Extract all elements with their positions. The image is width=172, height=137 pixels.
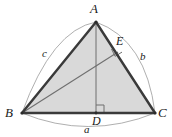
point-label-E: E	[116, 35, 123, 47]
vertex-label-B: B	[5, 106, 13, 119]
triangle-fill	[22, 22, 155, 113]
point-label-D: D	[92, 115, 101, 127]
vertex-dot-C	[153, 111, 156, 114]
side-label-c: c	[42, 48, 47, 59]
vertex-label-A: A	[90, 2, 98, 15]
vertex-dot-A	[94, 20, 97, 23]
figure-canvas	[0, 0, 172, 137]
vertex-label-C: C	[158, 106, 167, 119]
side-label-b: b	[140, 51, 146, 62]
geometry-figure: A B C D E a b c	[0, 0, 172, 137]
vertex-dot-B	[20, 111, 23, 114]
side-label-a: a	[84, 124, 90, 135]
